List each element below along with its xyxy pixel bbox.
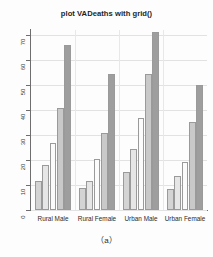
bar-rural-female-50-54 <box>79 188 86 210</box>
figure-caption: （a） <box>0 234 213 245</box>
x-axis-group-label: Rural Female <box>78 215 116 222</box>
y-axis-tick <box>26 210 30 211</box>
bar-rural-female-60-64 <box>94 159 101 210</box>
bar-urban-male-60-64 <box>138 118 145 211</box>
bar-rural-male-70-74 <box>64 45 71 210</box>
bar-rural-female-55-59 <box>86 181 93 210</box>
y-axis-tick-label: 30 <box>20 135 26 149</box>
bar-rural-male-50-54 <box>35 181 42 210</box>
y-axis-tick-label: 60 <box>20 60 26 74</box>
y-axis-tick-label: 0 <box>20 210 26 224</box>
gridline-vertical <box>119 30 120 210</box>
bar-urban-female-65-69 <box>189 122 196 210</box>
bar-rural-male-55-59 <box>42 165 49 210</box>
bar-rural-male-65-69 <box>57 108 64 211</box>
bar-urban-female-60-64 <box>182 162 189 210</box>
y-axis-tick <box>26 85 30 86</box>
y-axis-tick-label: 40 <box>20 110 26 124</box>
y-axis-tick-label: 20 <box>20 160 26 174</box>
bar-rural-female-70-74 <box>108 74 115 210</box>
bar-urban-male-50-54 <box>123 172 130 211</box>
bar-rural-male-60-64 <box>50 143 57 210</box>
y-axis-tick-label: 70 <box>20 35 26 49</box>
y-axis-tick-label: 50 <box>20 85 26 99</box>
bar-urban-male-65-69 <box>145 74 152 211</box>
bar-urban-female-50-54 <box>167 189 174 210</box>
y-axis-tick-label: 10 <box>20 185 26 199</box>
y-axis-tick <box>26 60 30 61</box>
chart-title: plot VADeaths with grid() <box>0 9 213 18</box>
gridline-vertical <box>75 30 76 210</box>
x-axis-group-label: Urban Female <box>165 215 206 222</box>
y-axis-tick <box>26 160 30 161</box>
y-axis-tick <box>26 185 30 186</box>
gridline-horizontal <box>31 210 207 211</box>
bar-urban-female-55-59 <box>174 176 181 210</box>
y-axis-tick <box>26 135 30 136</box>
bar-urban-male-55-59 <box>130 149 137 210</box>
y-axis-tick <box>26 110 30 111</box>
bar-urban-female-70-74 <box>196 85 203 210</box>
bar-urban-male-70-74 <box>152 32 159 210</box>
x-axis-group-label: Urban Male <box>124 215 157 222</box>
y-axis-tick <box>26 35 30 36</box>
x-axis-group-label: Rural Male <box>38 215 69 222</box>
gridline-vertical <box>163 30 164 210</box>
plot-area <box>31 30 207 210</box>
figure-panel: plot VADeaths with grid() （a） 0102030405… <box>0 0 213 257</box>
bar-rural-female-65-69 <box>101 133 108 210</box>
